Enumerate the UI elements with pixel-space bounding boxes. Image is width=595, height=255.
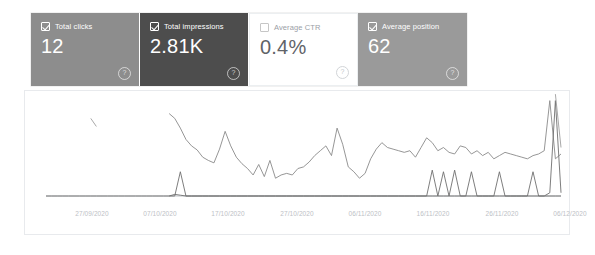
average-ctr-label: Average CTR xyxy=(274,23,320,32)
x-axis-tick-label: 27/09/2020 xyxy=(75,210,109,217)
average-position-value: 62 xyxy=(368,36,457,56)
metric-card-total-clicks[interactable]: Total clicks 12 ? xyxy=(31,13,140,86)
average-ctr-value: 0.4% xyxy=(260,37,347,57)
average-position-label: Average position xyxy=(382,22,439,31)
series-line xyxy=(91,94,561,147)
total-impressions-label: Total impressions xyxy=(164,22,224,31)
average-ctr-checkbox[interactable] xyxy=(260,23,269,32)
total-clicks-label: Total clicks xyxy=(55,22,92,31)
help-icon[interactable]: ? xyxy=(118,67,131,80)
total-clicks-checkbox[interactable] xyxy=(41,22,50,31)
average-position-checkbox[interactable] xyxy=(368,22,377,31)
help-icon[interactable]: ? xyxy=(227,67,240,80)
metric-card-header: Average CTR xyxy=(260,23,347,32)
total-clicks-value: 12 xyxy=(41,36,129,56)
x-axis-tick-label: 07/10/2020 xyxy=(143,210,177,217)
x-axis-tick-label: 06/11/2020 xyxy=(348,210,381,217)
metric-card-header: Total impressions xyxy=(150,22,238,31)
search-console-performance-widget: Total clicks 12 ? Total impressions 2.81… xyxy=(0,0,595,255)
help-icon[interactable]: ? xyxy=(336,66,349,79)
help-icon[interactable]: ? xyxy=(446,67,459,80)
series-line xyxy=(169,101,561,179)
total-impressions-checkbox[interactable] xyxy=(150,22,159,31)
x-axis: 27/09/202007/10/202017/10/202027/10/2020… xyxy=(25,208,571,232)
metric-card-average-ctr[interactable]: Average CTR 0.4% ? xyxy=(249,13,358,86)
x-axis-tick-label: 06/12/2020 xyxy=(553,210,587,217)
metric-cards: Total clicks 12 ? Total impressions 2.81… xyxy=(31,13,467,86)
x-axis-tick-label: 27/10/2020 xyxy=(280,210,314,217)
series-line xyxy=(169,101,561,196)
x-axis-tick-label: 16/11/2020 xyxy=(416,210,449,217)
metric-card-total-impressions[interactable]: Total impressions 2.81K ? xyxy=(140,13,249,86)
x-axis-tick-label: 26/11/2020 xyxy=(485,210,518,217)
performance-chart-panel[interactable]: 27/09/202007/10/202017/10/202027/10/2020… xyxy=(24,90,570,235)
metric-card-average-position[interactable]: Average position 62 ? xyxy=(358,13,467,86)
total-impressions-value: 2.81K xyxy=(150,36,238,56)
metric-card-header: Total clicks xyxy=(41,22,129,31)
chart-plot-area[interactable] xyxy=(25,91,571,208)
x-axis-tick-label: 17/10/2020 xyxy=(211,210,245,217)
performance-line-chart xyxy=(25,91,571,208)
metric-card-header: Average position xyxy=(368,22,457,31)
